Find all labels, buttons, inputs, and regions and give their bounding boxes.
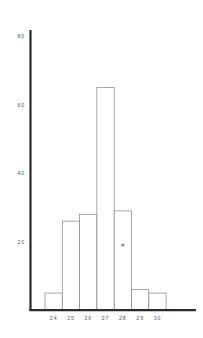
x-axis-tick-label: 26 (84, 315, 92, 321)
y-axis-tick-label: 40 (17, 170, 25, 176)
annotations-group (121, 244, 124, 247)
y-axis-tick-label: 60 (17, 102, 25, 108)
histogram-bar (80, 214, 97, 310)
x-axis-tick-label: 30 (154, 315, 162, 321)
x-axis-tick-label: 24 (50, 315, 58, 321)
histogram-bar (62, 221, 79, 310)
y-axis-tick-label: 20 (17, 239, 25, 245)
histogram-bar (132, 290, 149, 311)
chart-canvas: 20406080 24252627282930 (0, 0, 203, 338)
histogram-bar (149, 293, 166, 310)
histogram-chart: 20406080 24252627282930 (0, 0, 203, 338)
histogram-bar (114, 211, 131, 310)
smudge-mark (121, 244, 124, 247)
histogram-bar (45, 293, 62, 310)
histogram-bar (97, 88, 114, 311)
x-axis-tick-label: 28 (119, 315, 127, 321)
x-axis-tick-label: 29 (136, 315, 144, 321)
x-axis-tick-label: 25 (67, 315, 75, 321)
x-axis-tick-label: 27 (102, 315, 110, 321)
y-axis-tick-label: 80 (17, 33, 25, 39)
